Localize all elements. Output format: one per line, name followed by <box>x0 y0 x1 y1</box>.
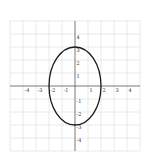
y-tick-label: -1 <box>77 98 82 104</box>
y-tick-label: 4 <box>77 34 80 40</box>
y-tick-label: 2 <box>77 60 80 66</box>
tick-labels: -4-3-2-112344321-1-2-3-4 <box>25 34 132 143</box>
x-tick-label: -3 <box>38 87 43 93</box>
y-tick-label: -4 <box>77 137 82 143</box>
x-tick-label: 1 <box>90 87 93 93</box>
x-tick-label: -2 <box>51 87 56 93</box>
x-tick-label: -4 <box>25 87 30 93</box>
x-tick-label: 3 <box>116 87 119 93</box>
x-tick-label: 4 <box>129 87 132 93</box>
y-tick-label: -2 <box>77 111 82 117</box>
x-tick-label: 2 <box>103 87 106 93</box>
ellipse-graph: -4-3-2-112344321-1-2-3-4 <box>0 0 146 155</box>
x-tick-label: -1 <box>64 87 69 93</box>
axes <box>10 21 140 151</box>
y-tick-label: 1 <box>77 73 80 79</box>
